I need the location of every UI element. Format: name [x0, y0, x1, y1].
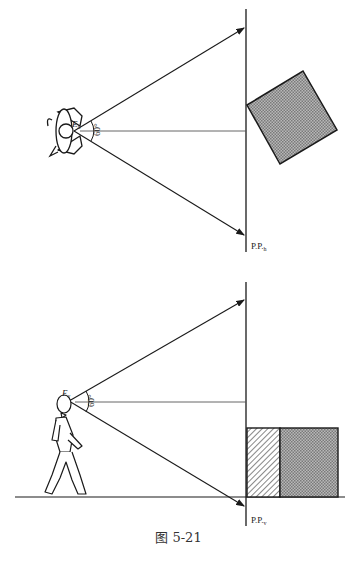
sight-line-lower: [74, 131, 244, 235]
figure-caption: 图 5-21: [0, 527, 357, 546]
object-face-shaded: [280, 428, 338, 497]
angle-label-top: 60°: [92, 123, 102, 136]
eye-label-v: Ev: [61, 388, 71, 399]
pp-label-h: P.P.h: [251, 241, 267, 252]
viewer-plan-icon: [48, 108, 83, 156]
object-face-hatched: [247, 428, 280, 497]
perspective-diagram: 60° Eh P.P.h 60°: [0, 0, 357, 561]
sight-line-upper: [74, 28, 244, 131]
side-view: 60° Ev P.P.v: [15, 282, 345, 526]
pp-label-v: P.P.v: [251, 515, 267, 526]
top-view: 60° Eh P.P.h: [48, 9, 338, 252]
object-plan-square: [247, 71, 337, 164]
angle-label-side: 60°: [86, 394, 96, 407]
sight-line-upper-v: [69, 300, 244, 401]
sight-line-lower-v: [69, 401, 244, 506]
viewer-walking-icon: [45, 395, 86, 494]
